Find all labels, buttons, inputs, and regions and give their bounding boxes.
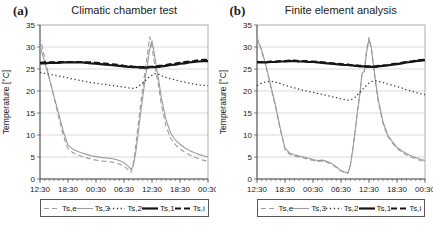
x-tick-label: 18:30 (386, 185, 407, 194)
y-tick-label: 0 (247, 175, 252, 184)
y-tick-label: 15 (26, 109, 35, 118)
panel-a-header: (a) Climatic chamber test (0, 3, 217, 20)
y-tick-label: 20 (26, 87, 35, 96)
x-tick-label: 00:30 (414, 185, 432, 194)
legend-line-sample (326, 205, 342, 212)
y-tick-label: 25 (26, 65, 35, 74)
series-line-Ts,e (257, 37, 425, 173)
panel-b-title: Finite element analysis (257, 3, 426, 18)
legend-label: Ts,2 (344, 204, 359, 213)
plot-border (40, 25, 208, 179)
x-tick-label: 18:30 (170, 185, 191, 194)
panel-b-letter: (b) (230, 3, 246, 18)
legend-item-Ts,1: Ts,1 (142, 204, 175, 213)
legend-item-Ts,i: Ts,i (391, 204, 421, 213)
x-tick-label: 06:30 (330, 185, 351, 194)
x-tick-label: 12:30 (246, 185, 267, 194)
y-tick-label: 25 (243, 65, 252, 74)
legend-label: Ts,3 (95, 204, 110, 213)
legend-item-Ts,1: Ts,1 (359, 204, 392, 213)
legend-item-Ts,3: Ts,3 (293, 204, 326, 213)
legend-line-sample (293, 205, 309, 212)
x-tick-label: 12:30 (30, 185, 51, 194)
series-line-Ts,3 (257, 38, 425, 173)
legend-line-sample (261, 205, 277, 212)
legend-line-sample (77, 205, 93, 212)
y-tick-label: 30 (243, 43, 252, 52)
y-tick-label: 35 (26, 21, 35, 30)
panel-b-header: (b) Finite element analysis (217, 3, 433, 20)
legend-label: Ts,3 (311, 204, 326, 213)
series-line-Ts,3 (40, 41, 208, 170)
x-tick-label: 18:30 (274, 185, 295, 194)
legend-item-Ts,3: Ts,3 (77, 204, 110, 213)
y-tick-label: 15 (243, 109, 252, 118)
legend-line-sample (391, 205, 407, 212)
panel-a-letter: (a) (13, 3, 28, 18)
y-tick-label: 30 (26, 43, 35, 52)
x-tick-label: 06:30 (114, 185, 135, 194)
series-line-Ts,2 (257, 81, 425, 100)
legend-item-Ts,e: Ts,e (261, 204, 294, 213)
figure: (a) Climatic chamber test 05101520253035… (0, 0, 433, 229)
legend-label: Ts,e (279, 204, 294, 213)
legend-item-Ts,i: Ts,i (175, 204, 205, 213)
y-tick-label: 10 (26, 131, 35, 140)
panel-a: (a) Climatic chamber test 05101520253035… (0, 2, 217, 229)
x-tick-label: 00:30 (302, 185, 323, 194)
series-line-Ts,e (40, 36, 208, 172)
legend-label: Ts,2 (127, 204, 142, 213)
chart-a: 0510152025303512:3018:3000:3006:3012:301… (0, 20, 216, 196)
legend-line-sample (175, 205, 191, 212)
legend-label: Ts,i (409, 204, 421, 213)
chart-b: 0510152025303512:3018:3000:3006:3012:301… (217, 20, 433, 196)
legend-label: Ts,i (193, 204, 205, 213)
legend-item-Ts,2: Ts,2 (326, 204, 359, 213)
y-tick-label: 5 (31, 153, 36, 162)
legend-label: Ts,1 (160, 204, 175, 213)
y-axis-title: Temperature [°C] (1, 70, 11, 134)
x-tick-label: 00:30 (198, 185, 216, 194)
legend-label: Ts,e (62, 204, 77, 213)
legend-line-sample (44, 205, 60, 212)
legend-label: Ts,1 (377, 204, 392, 213)
legend-line-sample (109, 205, 125, 212)
plot-border (257, 25, 425, 179)
series-line-Ts,2 (40, 73, 208, 89)
panel-b: (b) Finite element analysis 051015202530… (217, 2, 433, 229)
legend-line-sample (359, 205, 375, 212)
y-tick-label: 10 (243, 131, 252, 140)
x-tick-label: 12:30 (142, 185, 163, 194)
y-tick-label: 0 (31, 175, 36, 184)
x-tick-label: 12:30 (358, 185, 379, 194)
legend-item-Ts,e: Ts,e (44, 204, 77, 213)
legend-item-Ts,2: Ts,2 (109, 204, 142, 213)
y-tick-label: 20 (243, 87, 252, 96)
legend-b: Ts,eTs,3Ts,2Ts,1Ts,i (257, 199, 426, 217)
y-tick-label: 35 (243, 21, 252, 30)
y-tick-label: 5 (247, 153, 252, 162)
legend-a: Ts,eTs,3Ts,2Ts,1Ts,i (40, 199, 209, 217)
legend-line-sample (142, 205, 158, 212)
panel-a-title: Climatic chamber test (40, 3, 209, 18)
x-tick-label: 18:30 (58, 185, 79, 194)
x-tick-label: 00:30 (86, 185, 107, 194)
y-axis-title: Temperature [°C] (218, 70, 228, 134)
